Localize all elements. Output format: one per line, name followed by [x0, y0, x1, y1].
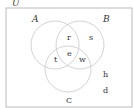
element-e: e	[67, 49, 72, 58]
element-h: h	[103, 70, 108, 79]
venn-diagram: U A B C r s e t w h d	[0, 0, 134, 108]
element-s: s	[89, 33, 93, 42]
set-c-label: C	[66, 96, 72, 105]
set-b-label: B	[102, 14, 110, 24]
element-r: r	[67, 33, 71, 42]
universe-label: U	[12, 0, 20, 8]
element-d: d	[103, 86, 108, 95]
element-w: w	[79, 55, 86, 64]
set-a-label: A	[31, 14, 39, 24]
